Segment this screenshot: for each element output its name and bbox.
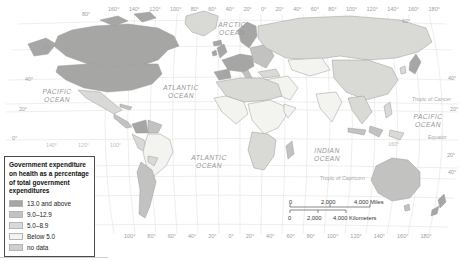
world-health-expenditure-map: 160°140°120°100°80°60°40°20°0°20°40°60°8… <box>0 0 464 261</box>
region-colombia <box>132 120 148 133</box>
region-southern-africa <box>248 132 276 170</box>
scale-km-start: 0 <box>288 215 291 221</box>
grid-longitude-label: 120° <box>350 233 361 239</box>
latitude-label-left: 40° <box>25 76 33 82</box>
region-venezuela <box>148 120 162 133</box>
grid-longitude-label: 100° <box>327 233 338 239</box>
grid-longitude-label: 120° <box>367 6 378 12</box>
latitude-label-left: 60° <box>43 44 51 50</box>
region-india <box>316 92 342 122</box>
grid-longitude-label: 180° <box>429 6 440 12</box>
bottom-edge-rule <box>0 257 108 258</box>
ocean-label-arctic: ARCTIC OCEAN <box>206 21 258 37</box>
grid-longitude-label: 160° <box>108 6 119 12</box>
grid-longitude-label: 140° <box>374 233 385 239</box>
region-central-america <box>114 114 132 128</box>
legend-label: 13.0 and above <box>27 200 71 207</box>
grid-longitude-label: 40° <box>266 233 274 239</box>
legend-swatch <box>9 233 23 240</box>
grid-longitude-label: 80° <box>328 6 336 12</box>
legend-label: Below 5.0 <box>27 233 55 240</box>
latitude-label-right: 20° <box>450 106 458 112</box>
legend-item: Below 5.0 <box>9 233 90 240</box>
region-madagascar <box>286 141 294 159</box>
legend-label: 9.0–12.9 <box>27 211 52 218</box>
equator-label: Equator <box>428 134 447 140</box>
legend-swatch <box>9 222 23 229</box>
legend-label: no data <box>27 244 48 251</box>
latitude-label-right: 20° <box>447 152 455 158</box>
region-cuba <box>120 104 132 110</box>
region-philippines <box>384 102 392 118</box>
region-central-east-africa <box>248 100 286 134</box>
ocean-label-atlantic-south: ATLANTIC OCEAN <box>183 154 235 170</box>
grid-longitude-label: 160° <box>408 6 419 12</box>
region-japan <box>409 54 421 74</box>
latitude-label-right: 60° <box>402 18 410 24</box>
grid-longitude-label: 20° <box>246 233 254 239</box>
scale-km-mid: 2,000 <box>307 215 322 221</box>
ocean-label-pacific-west: PACIFIC OCEAN <box>31 88 83 104</box>
tropic-of-cancer-label: Tropic of Cancer <box>412 96 451 102</box>
grid-longitude-label: 20° <box>243 6 251 12</box>
grid-longitude-label: 180° <box>420 233 431 239</box>
grid-longitude-label: 60° <box>286 233 294 239</box>
region-iceland <box>213 40 222 46</box>
legend-item: 9.0–12.9 <box>9 211 90 218</box>
scale-miles-start: 0 <box>289 199 292 205</box>
grid-longitude-label: 60° <box>311 6 319 12</box>
grid-longitude-label: 80° <box>307 233 315 239</box>
region-iberia <box>214 69 231 80</box>
region-central-asia <box>288 58 330 76</box>
ocean-label-pacific-east: PACIFIC OCEAN <box>402 113 454 129</box>
region-ireland <box>212 50 217 56</box>
region-canada <box>54 24 179 66</box>
grid-longitude-label: 120° <box>149 6 160 12</box>
grid-longitude-label: 100° <box>346 6 357 12</box>
grid-longitude-label: 140° <box>129 6 140 12</box>
latitude-label-left: 20° <box>19 106 27 112</box>
bottom-longitude-labels: 100°80°60°40°20°0°20°40°60°80°100°120°14… <box>124 233 432 239</box>
legend-item: no data <box>9 244 90 251</box>
grid-longitude-label: 80° <box>191 6 199 12</box>
scale-km-end: 4,000 Kilometers <box>333 215 377 221</box>
top-longitude-labels: 160°140°120°100°80°60°40°20°0°20°40°60°8… <box>108 6 440 12</box>
interior-longitude-label: 120° <box>78 142 89 148</box>
region-indonesia <box>369 126 383 137</box>
grid-longitude-label: 20° <box>208 233 216 239</box>
legend-item: 13.0 and above <box>9 200 90 207</box>
region-korea <box>400 66 406 74</box>
interior-longitude-label: 140° <box>46 142 57 148</box>
grid-longitude-label: 20° <box>276 6 284 12</box>
legend-label: 5.0–8.9 <box>27 222 48 229</box>
grid-longitude-label: 100° <box>124 233 135 239</box>
grid-longitude-label: 40° <box>226 6 234 12</box>
ocean-label-atlantic-north: ATLANTIC OCEAN <box>155 84 207 100</box>
grid-longitude-label: 0° <box>229 233 234 239</box>
map-legend: Government expenditure on health as a pe… <box>4 156 95 257</box>
latitude-label-left: 80° <box>82 11 90 17</box>
region-indonesia <box>348 128 366 135</box>
latitude-label-right: 40° <box>448 169 456 175</box>
legend-title: Government expenditure on health as a pe… <box>9 161 90 196</box>
region-new-guinea <box>389 130 404 140</box>
legend-item: 5.0–8.9 <box>9 222 90 229</box>
tropic-of-capricorn-label: Tropic of Capricorn <box>320 175 365 181</box>
grid-longitude-label: 140° <box>387 6 398 12</box>
latitude-label-right: 40° <box>448 75 456 81</box>
region-china <box>332 60 398 100</box>
region-australia <box>371 158 420 201</box>
grid-longitude-label: 160° <box>397 233 408 239</box>
legend-swatch <box>9 244 23 251</box>
legend-swatch <box>9 211 23 218</box>
region-turkey <box>258 69 280 78</box>
grid-longitude-label: 100° <box>170 6 181 12</box>
ocean-label-indian: INDIAN OCEAN <box>301 147 353 163</box>
grid-longitude-label: 80° <box>147 233 155 239</box>
scale-bar: 0 2,000 4,000 Miles 0 2,000 4,000 Kilome… <box>283 197 417 227</box>
scale-miles-mid: 2,000 <box>321 199 336 205</box>
region-alaska <box>28 38 56 56</box>
grid-longitude-label: 60° <box>208 6 216 12</box>
latitude-label-left: 0° <box>12 135 17 141</box>
legend-swatch <box>9 200 23 207</box>
